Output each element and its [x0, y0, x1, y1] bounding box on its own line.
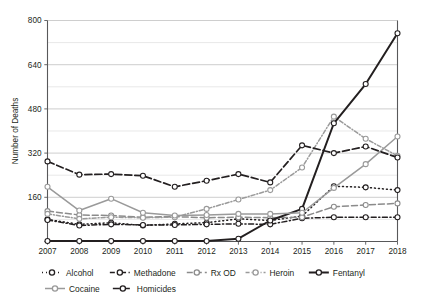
data-point-marker: [204, 222, 209, 227]
data-point-marker: [331, 215, 336, 220]
legend-label: Homicides: [137, 284, 176, 294]
data-point-marker: [45, 211, 50, 216]
data-point-marker: [300, 143, 305, 148]
legend-marker: [49, 270, 54, 275]
data-point-marker: [204, 206, 209, 211]
legend-label: Cocaine: [69, 284, 100, 294]
x-axis-tick-label: 2010: [134, 247, 153, 256]
legend-label: Fentanyl: [333, 268, 365, 278]
data-point-marker: [395, 31, 400, 36]
data-point-marker: [331, 204, 336, 209]
data-point-marker: [172, 222, 177, 227]
y-axis-tick-label: 800: [28, 16, 42, 25]
data-point-marker: [395, 188, 400, 193]
data-point-marker: [268, 218, 273, 223]
data-point-marker: [236, 236, 241, 241]
data-point-marker: [140, 222, 145, 227]
data-point-marker: [331, 185, 336, 190]
x-axis-tick-label: 2015: [293, 247, 312, 256]
line-chart: 160320480640800 200720082009201020112012…: [0, 0, 424, 306]
legend-label: Heroin: [270, 268, 295, 278]
data-point-marker: [172, 238, 177, 243]
data-point-marker: [45, 217, 50, 222]
data-point-marker: [140, 210, 145, 215]
data-point-marker: [300, 210, 305, 215]
y-axis-tick-label: 640: [28, 61, 42, 70]
data-point-marker: [268, 180, 273, 185]
x-axis-tick-label: 2013: [229, 247, 248, 256]
x-axis-tick-label: 2012: [197, 247, 216, 256]
data-point-marker: [395, 215, 400, 220]
data-point-marker: [268, 188, 273, 193]
data-point-marker: [109, 238, 114, 243]
legend-marker: [253, 270, 258, 275]
data-point-marker: [109, 196, 114, 201]
data-point-marker: [300, 165, 305, 170]
x-axis-tick-label: 2017: [357, 247, 376, 256]
data-point-marker: [236, 221, 241, 226]
data-point-marker: [236, 197, 241, 202]
data-point-marker: [172, 184, 177, 189]
data-point-marker: [363, 144, 368, 149]
legend-marker: [117, 270, 122, 275]
data-point-marker: [109, 215, 114, 220]
x-axis-tick-label: 2018: [388, 247, 407, 256]
legend-marker: [52, 286, 57, 291]
data-point-marker: [140, 238, 145, 243]
y-axis-title-label: Number of Deaths: [11, 98, 20, 164]
data-point-marker: [363, 82, 368, 87]
x-axis-tick-label: 2009: [102, 247, 121, 256]
data-point-marker: [45, 238, 50, 243]
data-point-marker: [204, 178, 209, 183]
data-point-marker: [77, 216, 82, 221]
data-point-marker: [172, 213, 177, 218]
data-point-marker: [77, 172, 82, 177]
y-axis-tick-label: 480: [28, 105, 42, 114]
data-point-marker: [45, 184, 50, 189]
legend-label: Rx OD: [211, 268, 236, 278]
data-point-marker: [109, 222, 114, 227]
x-axis-tick-label: 2014: [261, 247, 280, 256]
y-axis-title: Number of Deaths: [11, 98, 20, 164]
data-point-marker: [331, 114, 336, 119]
legend-marker: [194, 270, 199, 275]
data-point-marker: [395, 201, 400, 206]
data-point-marker: [331, 121, 336, 126]
legend-label: Alcohol: [66, 268, 94, 278]
x-axis-tick-label: 2008: [70, 247, 89, 256]
legend-label: Methadone: [134, 268, 176, 278]
data-point-marker: [140, 173, 145, 178]
data-point-marker: [77, 223, 82, 228]
x-axis-tick-label: 2011: [166, 247, 184, 256]
y-axis-tick-label: 320: [28, 149, 42, 158]
data-point-marker: [363, 215, 368, 220]
data-point-marker: [140, 215, 145, 220]
data-point-marker: [204, 238, 209, 243]
data-point-marker: [77, 238, 82, 243]
data-point-marker: [363, 203, 368, 208]
x-axis-tick-label: 2016: [325, 247, 344, 256]
y-axis-tick-label: 160: [28, 193, 42, 202]
x-axis-tick-label: 2007: [38, 247, 57, 256]
data-point-marker: [236, 211, 241, 216]
chart-container: 160320480640800 200720082009201020112012…: [0, 0, 424, 306]
data-point-marker: [395, 155, 400, 160]
data-point-marker: [363, 162, 368, 167]
data-point-marker: [268, 211, 273, 216]
data-point-marker: [331, 151, 336, 156]
data-point-marker: [45, 159, 50, 164]
data-point-marker: [204, 212, 209, 217]
data-point-marker: [109, 172, 114, 177]
legend-marker: [316, 270, 321, 275]
data-point-marker: [77, 208, 82, 213]
data-point-marker: [236, 172, 241, 177]
data-point-marker: [395, 134, 400, 139]
data-point-marker: [363, 136, 368, 141]
data-point-marker: [363, 185, 368, 190]
legend-marker: [120, 286, 125, 291]
